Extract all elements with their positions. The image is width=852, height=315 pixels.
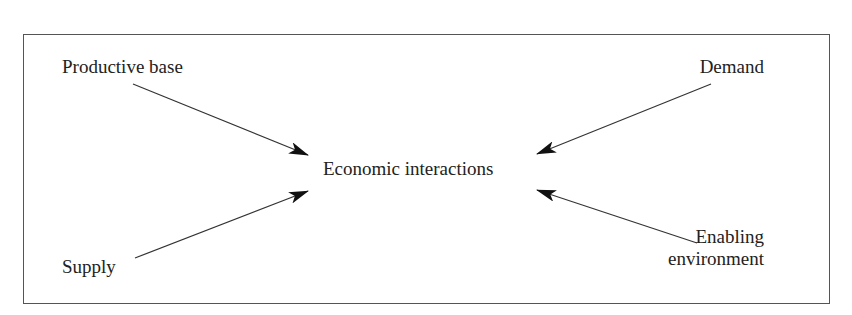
node-demand: Demand (700, 56, 764, 78)
arrow-supply (135, 191, 308, 258)
arrow-demand (537, 84, 711, 154)
node-enabling-line2: environment (668, 248, 764, 270)
node-supply: Supply (62, 256, 116, 278)
node-productive-base: Productive base (62, 56, 183, 78)
node-enabling-environment: Enabling environment (668, 226, 764, 270)
node-economic-interactions: Economic interactions (323, 158, 493, 180)
node-enabling-line1: Enabling (668, 226, 764, 248)
arrow-productive-base (133, 84, 308, 155)
